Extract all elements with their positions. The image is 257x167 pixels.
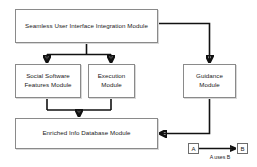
node-execution-module: Execution Module — [88, 64, 135, 98]
node-enriched-info-database-module: Enriched Info Database Module — [15, 118, 158, 149]
legend-node-a: A — [188, 143, 199, 154]
node-seamless-user-interface-integration-module: Seamless User Interface Integration Modu… — [15, 9, 158, 43]
diagram-canvas: Seamless User Interface Integration Modu… — [0, 0, 257, 167]
edge-seamless-to-guidance — [158, 24, 210, 63]
edge-guidance-to-database — [160, 98, 210, 134]
node-social-software-features-module: Social Software Features Module — [15, 64, 81, 98]
legend-node-b: B — [237, 143, 248, 154]
node-guidance-module: Guidance Module — [183, 64, 236, 98]
legend-caption: A uses B — [199, 154, 241, 160]
